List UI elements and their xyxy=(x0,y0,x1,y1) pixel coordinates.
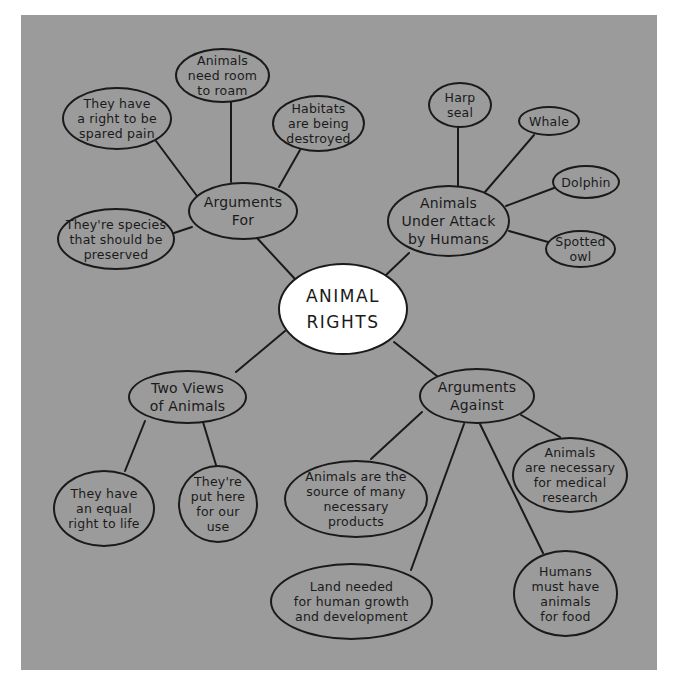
hub-label: Arguments Against xyxy=(438,378,517,414)
node-label: Harp seal xyxy=(445,90,476,120)
node-habitats-destroyed: Habitats are being destroyed xyxy=(272,95,365,152)
link-for-species xyxy=(174,227,192,233)
link-for-habitats xyxy=(279,150,300,187)
link-for-spared-pain xyxy=(156,141,197,196)
node-label: Animals are necessary for medical resear… xyxy=(525,445,615,505)
link-against-products xyxy=(371,412,422,459)
node-land-needed: Land needed for human growth and develop… xyxy=(270,563,433,640)
node-put-here-for-our-use: They're put here for our use xyxy=(178,465,258,543)
node-label: Spotted owl xyxy=(555,234,605,264)
node-label: Dolphin xyxy=(561,175,610,190)
node-whale: Whale xyxy=(518,106,580,136)
node-animals-for-food: Humans must have animals for food xyxy=(513,550,618,637)
node-label: Humans must have animals for food xyxy=(532,564,600,624)
node-label: Whale xyxy=(529,114,569,129)
node-necessary-products: Animals are the source of many necessary… xyxy=(284,460,428,538)
node-label: Animals need room to roam xyxy=(188,53,257,98)
node-harp-seal: Harp seal xyxy=(428,82,492,128)
node-label: They're species that should be preserved xyxy=(66,217,166,262)
link-views-use xyxy=(203,422,216,465)
hub-two-views: Two Views of Animals xyxy=(128,370,247,424)
node-label: They have an equal right to life xyxy=(68,486,140,531)
hub-label: Two Views of Animals xyxy=(150,379,226,415)
hub-animals-under-attack: Animals Under Attack by Humans xyxy=(387,185,510,257)
link-root-under-attack xyxy=(386,253,409,275)
node-medical-research: Animals are necessary for medical resear… xyxy=(512,437,628,513)
link-root-arguments-against xyxy=(394,342,437,376)
node-label: They're put here for our use xyxy=(191,474,246,534)
link-root-two-views xyxy=(236,331,285,372)
hub-arguments-against: Arguments Against xyxy=(419,368,535,424)
node-label: Animals are the source of many necessary… xyxy=(305,469,406,529)
node-room-to-roam: Animals need room to roam xyxy=(175,48,270,103)
node-spotted-owl: Spotted owl xyxy=(545,230,616,268)
hub-arguments-for: Arguments For xyxy=(188,182,298,240)
link-attack-whale xyxy=(485,135,534,192)
root-label: ANIMAL RIGHTS xyxy=(306,283,380,335)
link-attack-dolphin xyxy=(506,188,554,206)
link-root-arguments-for xyxy=(257,238,295,279)
node-species-preserved: They're species that should be preserved xyxy=(57,208,175,270)
link-attack-owl xyxy=(509,231,548,242)
node-dolphin: Dolphin xyxy=(552,165,620,199)
hub-label: Animals Under Attack by Humans xyxy=(402,194,496,248)
node-label: Habitats are being destroyed xyxy=(286,101,350,146)
link-against-medical xyxy=(521,415,560,437)
hub-label: Arguments For xyxy=(204,193,283,229)
node-equal-right-to-life: They have an equal right to life xyxy=(53,470,155,547)
root-node-animal-rights: ANIMAL RIGHTS xyxy=(278,263,408,355)
node-spared-pain: They have a right to be spared pain xyxy=(62,87,172,150)
node-label: Land needed for human growth and develop… xyxy=(294,579,409,624)
link-views-equal xyxy=(125,421,145,471)
node-label: They have a right to be spared pain xyxy=(77,96,157,141)
